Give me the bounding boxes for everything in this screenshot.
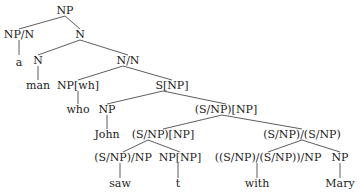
tree-node-with-cat: ((S/NP)/(S/NP))/NP (215, 152, 322, 164)
tree-edge (78, 66, 123, 80)
tree-node-np-john: NP (98, 104, 115, 116)
tree-node-npwh: NP[wh] (57, 80, 99, 92)
tree-node-snp: S[NP] (155, 80, 188, 92)
tree-node-NN: N/N (117, 55, 140, 67)
tree-edges (0, 0, 364, 194)
tree-node-np-mary: NP (331, 152, 348, 164)
tree-edge (163, 115, 222, 129)
tree-node-npnp: NP[NP] (159, 152, 202, 164)
tree-edge (38, 40, 80, 55)
tree-node-who: who (66, 104, 89, 116)
tree-node-john: John (94, 129, 119, 141)
tree-edge (123, 66, 172, 80)
tree-node-man: man (26, 80, 50, 92)
parse-tree: NPNP/NaNNmanN/NNP[wh]S[NP]whoNPJohn(S/NP… (0, 0, 364, 194)
tree-edge (80, 40, 128, 55)
tree-node-saw-cat: (S/NP)/NP (94, 152, 152, 164)
tree-node-snp-np2: (S/NP)[NP] (132, 129, 194, 141)
tree-node-N1: N (75, 29, 85, 41)
tree-node-mary: Mary (325, 178, 354, 190)
tree-node-snpsnp: (S/NP)/(S/NP) (263, 129, 340, 141)
tree-node-snp-np: (S/NP)[NP] (195, 104, 257, 116)
tree-node-a: a (16, 57, 23, 69)
tree-node-root: NP (56, 5, 73, 17)
tree-node-np-n: NP/N (4, 29, 34, 41)
tree-node-N2: N (33, 55, 43, 67)
tree-edge (222, 115, 302, 129)
tree-node-t: t (176, 178, 180, 190)
tree-node-with: with (245, 178, 269, 190)
tree-node-saw: saw (109, 178, 131, 190)
